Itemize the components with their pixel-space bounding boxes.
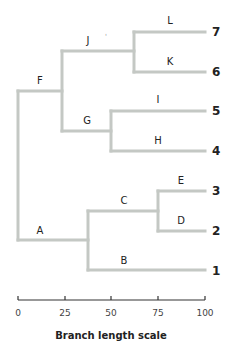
tick-label-50: 50 [105,308,117,318]
tick-label-25: 25 [59,308,70,318]
label-a: A [37,225,44,236]
leaf-1: 1 [212,264,220,278]
phylogenetic-tree: L K J ' F I G H E C D A B 7 6 5 4 3 2 1 … [0,0,235,356]
label-k: K [167,56,174,67]
label-c: C [121,195,128,206]
leaf-2: 2 [212,224,220,238]
leaf-4: 4 [212,144,220,158]
axis-title: Branch length scale [55,330,167,341]
stray-mark: ' [105,33,107,41]
leaf-labels: 7 6 5 4 3 2 1 [212,25,220,278]
label-g: G [83,115,91,126]
tick-label-100: 100 [196,308,213,318]
tick-label-0: 0 [15,308,21,318]
label-h: H [154,135,162,146]
label-d: D [177,215,185,226]
label-l: L [167,15,173,26]
branch-length-axis: 0 25 50 75 100 Branch length scale [15,296,214,341]
leaf-7: 7 [212,25,220,39]
label-f: F [37,75,43,86]
leaf-5: 5 [212,104,220,118]
label-e: E [178,175,184,186]
tick-label-75: 75 [152,308,163,318]
leaf-3: 3 [212,184,220,198]
label-b: B [121,255,128,266]
leaf-6: 6 [212,65,220,79]
tree-branches [18,32,205,270]
label-i: I [157,94,160,105]
label-j: J [86,35,90,46]
